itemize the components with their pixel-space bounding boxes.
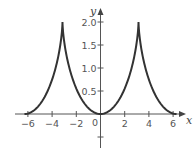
x-tick-label: 2 [122, 118, 128, 129]
y-tick-label: 1.5 [81, 40, 96, 51]
chart: −6−4−2246 0.51.01.52.0 x y 0 [0, 0, 194, 162]
y-tick-label: 1.0 [81, 63, 96, 74]
x-tick-label: −4 [45, 118, 59, 129]
x-axis-arrow-icon [179, 111, 186, 117]
y-axis-label: y [89, 5, 97, 18]
origin-label: 0 [92, 117, 98, 128]
x-tick-label: 4 [146, 118, 152, 129]
x-tick-label: −6 [21, 118, 35, 129]
x-tick-label: 6 [170, 118, 176, 129]
y-axis-arrow-icon [98, 8, 104, 15]
y-tick-label: 0.5 [81, 86, 96, 97]
y-tick-label: 2.0 [81, 17, 96, 28]
x-tick-label: −2 [69, 118, 83, 129]
x-axis-label: x [186, 114, 193, 127]
